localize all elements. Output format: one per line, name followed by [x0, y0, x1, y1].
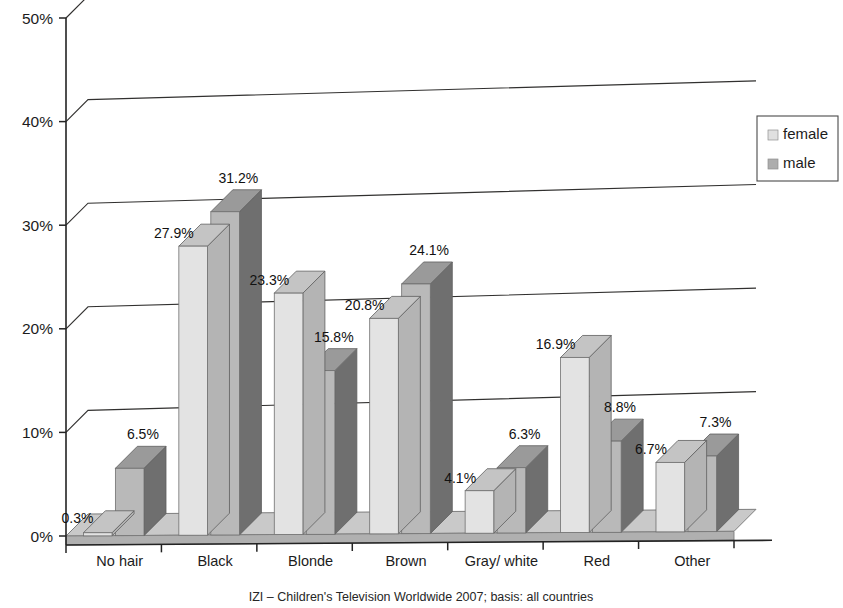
- bar-front-face: [656, 462, 685, 531]
- y-label-0: 0%: [31, 528, 54, 545]
- value-label-female-3: 20.8%: [345, 297, 385, 313]
- legend-label-male: male: [783, 154, 816, 171]
- y-label-30: 30%: [22, 217, 53, 234]
- bar-chart-figure: 0%10%20%30%40%50% No hairBlackBlondeBrow…: [0, 0, 843, 608]
- figure-caption: IZI – Children's Television Worldwide 20…: [249, 590, 593, 604]
- legend-swatch-female: [768, 130, 778, 140]
- grid-line-40: [66, 81, 756, 122]
- bar-side-face: [430, 262, 452, 534]
- value-label-male-4: 6.3%: [509, 426, 541, 442]
- legend-label-female: female: [783, 125, 828, 142]
- bar-front-face: [465, 491, 494, 533]
- bar-front-face: [274, 293, 303, 534]
- value-label-female-4: 4.1%: [444, 470, 476, 486]
- bar-female-blonde: [274, 271, 325, 534]
- x-label-blonde: Blonde: [288, 553, 333, 569]
- chart-legend: femalemale: [757, 116, 838, 181]
- value-label-female-6: 6.7%: [635, 441, 667, 457]
- y-label-40: 40%: [22, 113, 53, 130]
- value-label-male-6: 7.3%: [700, 414, 732, 430]
- x-label-graywhite: Gray/ white: [465, 553, 538, 569]
- value-label-female-5: 16.9%: [536, 336, 576, 352]
- value-label-male-3: 24.1%: [409, 242, 449, 258]
- grid-line-50: [66, 0, 756, 18]
- bar-side-face: [303, 271, 325, 534]
- y-label-50: 50%: [22, 10, 53, 27]
- y-label-20: 20%: [22, 320, 53, 337]
- y-axis-tick-labels: 0%10%20%30%40%50%: [22, 10, 53, 545]
- x-label-nohair: No hair: [96, 553, 143, 569]
- x-label-red: Red: [584, 553, 611, 569]
- bar-side-face: [589, 335, 611, 532]
- value-label-male-5: 8.8%: [604, 399, 636, 415]
- value-label-female-0: 0.3%: [61, 510, 93, 526]
- value-label-male-0: 6.5%: [127, 426, 159, 442]
- bar-side-face: [207, 224, 229, 535]
- x-axis-category-labels: No hairBlackBlondeBrownGray/ whiteRedOth…: [96, 553, 710, 569]
- bar-front-face: [179, 246, 208, 535]
- bar-female-black: [179, 224, 230, 535]
- bar-front-face: [370, 318, 399, 533]
- bar-side-face: [335, 349, 357, 535]
- legend-swatch-male: [768, 159, 778, 169]
- x-label-brown: Brown: [385, 553, 426, 569]
- value-label-female-1: 27.9%: [154, 225, 194, 241]
- bar-front-face: [561, 357, 590, 532]
- grid-line-30: [66, 184, 756, 225]
- bar-female-brown: [370, 296, 421, 533]
- bar-front-face: [83, 533, 112, 536]
- chart-canvas: 0%10%20%30%40%50% No hairBlackBlondeBrow…: [0, 0, 843, 608]
- bar-side-face: [398, 296, 420, 533]
- y-label-10: 10%: [22, 424, 53, 441]
- x-label-other: Other: [674, 553, 710, 569]
- value-label-male-1: 31.2%: [218, 170, 258, 186]
- bar-female-red: [561, 335, 612, 532]
- bar-side-face: [239, 190, 261, 535]
- value-label-male-2: 15.8%: [314, 329, 354, 345]
- value-label-female-2: 23.3%: [249, 272, 289, 288]
- x-label-black: Black: [197, 553, 233, 569]
